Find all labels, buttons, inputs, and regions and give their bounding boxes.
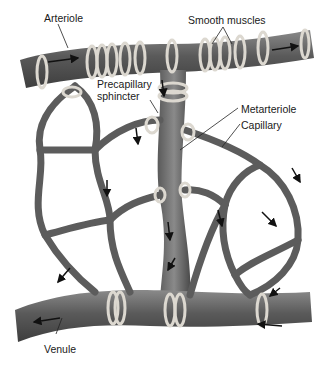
label-arteriole: Arteriole: [44, 12, 83, 24]
label-venule: Venule: [44, 343, 76, 355]
label-smooth-muscles: Smooth muscles: [188, 14, 266, 26]
label-precapillary-sphincter-line1: Precapillary: [97, 78, 152, 90]
label-metarteriole: Metarteriole: [241, 103, 296, 115]
metarteriole-vessel: [158, 70, 191, 300]
label-precapillary-sphincter-line2: sphincter: [97, 90, 140, 102]
label-capillary: Capillary: [241, 119, 282, 131]
capillary-bed-illustration: [0, 0, 321, 369]
